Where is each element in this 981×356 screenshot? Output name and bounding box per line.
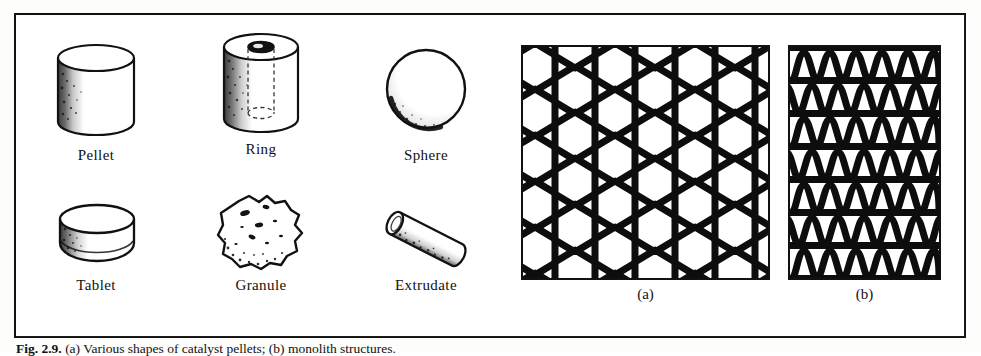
extrudate-art [351,200,501,277]
shape-label-tablet: Tablet [21,277,171,294]
pellet-art [21,37,171,147]
shape-cell-tablet: Tablet [21,197,171,294]
shape-label-pellet: Pellet [21,147,171,164]
caption-text: (a) Various shapes of catalyst pellets; … [65,341,396,356]
catalyst-shapes-area: Pellet [16,15,516,340]
hollow-cylinder-ring-icon [215,27,307,145]
shape-label-extrudate: Extrudate [351,277,501,294]
tablet-art [21,197,171,277]
monolith-label-a: (a) [521,286,770,303]
monolith-label-b: (b) [788,286,941,303]
shape-cell-granule: Granule [186,190,336,294]
monolith-honeycomb: (a) [521,45,770,303]
granule-art [186,190,336,277]
tilted-rod-extrudate-icon [371,203,481,275]
honeycomb-monolith-icon [523,47,768,278]
shape-cell-pellet: Pellet [21,37,171,164]
cylinder-pellet-icon [50,40,142,144]
monolith-corrugated: (b) [788,45,941,303]
shape-cell-sphere: Sphere [351,37,501,164]
shape-cell-ring: Ring [186,31,336,158]
short-cylinder-tablet-icon [51,199,141,275]
figure-plate-frame: Pellet [14,13,966,338]
sphere-art [351,37,501,147]
honeycomb-frame [521,45,770,280]
shape-label-granule: Granule [186,277,336,294]
shape-cell-extrudate: Extrudate [351,200,501,294]
sphere-icon [379,42,473,142]
corrugated-frame [788,45,941,280]
shape-label-sphere: Sphere [351,147,501,164]
irregular-granule-icon [209,191,313,277]
figure-caption: Fig. 2.9. (a) Various shapes of catalyst… [16,341,966,356]
corrugated-monolith-icon [790,47,939,278]
ring-art [186,31,336,141]
caption-figure-number: Fig. 2.9. [16,341,62,356]
